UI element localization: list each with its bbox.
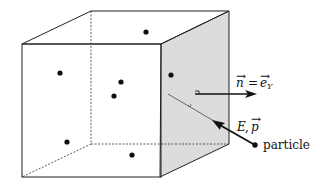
particle-dot: [118, 79, 123, 84]
incoming-particle-dot: [252, 142, 257, 147]
particle-dot: [57, 70, 62, 75]
particle-dot: [129, 152, 134, 157]
subscript-y: Y: [267, 82, 273, 91]
particle-dot: [168, 72, 173, 77]
comma: ,: [245, 120, 249, 134]
particles-group: [57, 29, 173, 157]
particle-dot: [143, 29, 148, 34]
vector-arrow-icon: →: [236, 69, 246, 83]
particle-label: particle: [263, 138, 310, 152]
particle-dot: [64, 139, 69, 144]
particle-dot: [111, 93, 116, 98]
hidden-edge-bottom-diagonal: [22, 144, 91, 177]
energy-momentum-label: E , p →: [236, 112, 261, 134]
box-diagram: n → = e → Y E , p → particle: [0, 0, 320, 187]
front-face: [22, 44, 161, 177]
vector-arrow-icon: →: [251, 112, 261, 126]
vector-arrow-icon: →: [260, 69, 270, 83]
normal-vector-label: n → = e → Y: [236, 69, 273, 91]
equals-sign: =: [248, 76, 258, 90]
